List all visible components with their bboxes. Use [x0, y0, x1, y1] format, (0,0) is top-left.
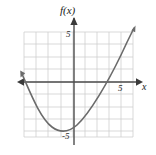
- y-tick-label-neg5: -5: [62, 131, 70, 141]
- coordinate-plane: [0, 0, 156, 155]
- function-curve: [20, 26, 135, 132]
- x-axis-label: x: [142, 81, 146, 92]
- x-tick-label-5: 5: [118, 83, 123, 93]
- y-axis-label: f(x): [60, 4, 75, 16]
- x-axis-arrow-left: [17, 78, 24, 86]
- y-tick-label-5: 5: [66, 29, 71, 39]
- y-axis-arrow-up: [70, 17, 77, 25]
- graph-figure: f(x) x 5 5 -5: [0, 0, 156, 155]
- grid-lines: [24, 32, 133, 137]
